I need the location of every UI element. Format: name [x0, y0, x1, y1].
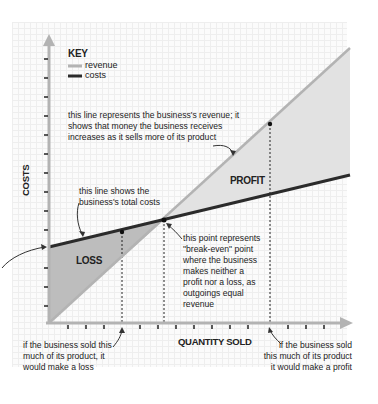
loss-region-label: LOSS — [76, 255, 102, 266]
break-even-annotation: this point represents "break-even" point… — [183, 233, 260, 310]
legend-title: KEY — [68, 48, 88, 59]
y-axis-arrow-icon — [43, 34, 55, 46]
loss-point — [120, 230, 124, 234]
revenue-line-annotation: this line represents the business's reve… — [68, 110, 239, 143]
x-axis-ticks — [68, 325, 324, 329]
start-costs-arrow-icon — [2, 247, 45, 268]
legend-label-revenue: revenue — [85, 60, 118, 70]
revenue-annotation-arrow-icon — [213, 145, 233, 153]
legend-entry-costs: costs — [68, 70, 106, 80]
legend-label-costs: costs — [85, 70, 106, 80]
y-axis-label: COSTS — [20, 165, 31, 196]
costs-line-annotation: this line shows the business's total cos… — [79, 186, 160, 208]
x-axis-label: QUANTITY SOLD — [178, 336, 252, 347]
y-axis-ticks — [44, 59, 48, 306]
break-even-point — [162, 218, 167, 223]
x-axis-arrow-icon — [340, 317, 353, 329]
profit-quantity-annotation: if the business sold this much of its pr… — [256, 340, 352, 373]
profit-point — [268, 122, 272, 126]
loss-quantity-annotation: if the business sold this much of its pr… — [23, 340, 112, 373]
profit-region-label: PROFIT — [230, 175, 265, 186]
legend-entry-revenue: revenue — [68, 60, 118, 70]
